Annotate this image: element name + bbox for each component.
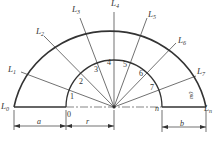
dimension-lines	[14, 110, 206, 132]
label-L7: L7	[196, 66, 206, 77]
layout-diagram: L0 L1 L2 L3 L4 L5 L6 L7 Ln 0 1 2 3 4 5 6…	[0, 0, 213, 142]
inner-label-3: 3	[94, 65, 98, 74]
label-L3: L3	[71, 4, 80, 15]
label-Ln: Ln	[203, 103, 212, 114]
label-L5: L5	[147, 9, 156, 20]
annotation-m0: m0	[188, 92, 194, 99]
label-L4: L4	[110, 0, 119, 9]
inner-label-n: n	[155, 104, 159, 113]
inner-label-6: 6	[139, 69, 143, 78]
inner-label-1: 1	[70, 92, 74, 101]
dim-a: a	[37, 117, 41, 126]
inner-label-4: 4	[107, 58, 111, 67]
label-L2: L2	[35, 26, 44, 37]
inner-label-7: 7	[150, 83, 154, 92]
dim-r: r	[86, 117, 90, 126]
label-L1: L1	[7, 64, 16, 75]
inner-label-2: 2	[79, 77, 83, 86]
label-L6: L6	[177, 35, 186, 46]
dim-b: b	[180, 119, 184, 128]
inner-label-0: 0	[67, 110, 71, 119]
label-L0: L0	[0, 101, 9, 112]
inner-label-5: 5	[123, 60, 127, 69]
